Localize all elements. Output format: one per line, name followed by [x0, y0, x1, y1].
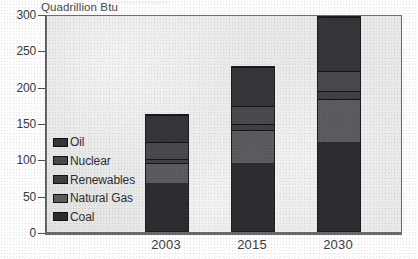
y-axis-tick-label: 0	[2, 226, 36, 240]
bar-segment-natural-gas	[232, 130, 274, 163]
y-axis-tick	[38, 197, 45, 198]
y-axis-tick	[38, 160, 45, 161]
y-axis-tick-label: 150	[2, 117, 36, 131]
y-axis-tick	[38, 124, 45, 125]
y-axis-tick-label: 100	[2, 153, 36, 167]
y-axis-tick-label: 250	[2, 44, 36, 58]
y-axis-tick-labels: 050100150200250300	[0, 0, 36, 259]
legend-label: Natural Gas	[70, 191, 133, 205]
legend-swatch-icon	[53, 194, 68, 203]
legend-label: Renewables	[70, 173, 135, 187]
bar-segment-nuclear	[146, 142, 188, 158]
plot-area: OilNuclearRenewablesNatural GasCoal	[46, 15, 402, 233]
x-axis-tick-label: 2030	[303, 237, 373, 252]
y-axis-unit-label: Quadrillion Btu	[41, 1, 118, 13]
cropped-title-remnant: ........................	[96, 0, 286, 3]
legend-item-coal: Coal	[53, 207, 135, 226]
legend-swatch-icon	[53, 156, 68, 165]
legend-swatch-icon	[53, 175, 68, 184]
bar-segment-oil	[232, 67, 274, 106]
x-axis-line	[45, 233, 402, 235]
y-axis-tick	[38, 88, 45, 89]
y-axis-tick	[38, 51, 45, 52]
y-axis-tick-label: 300	[2, 8, 36, 22]
bar-segment-oil	[318, 17, 360, 71]
legend-item-natural-gas: Natural Gas	[53, 189, 135, 208]
legend-item-oil: Oil	[53, 133, 135, 152]
bar-segment-nuclear	[232, 106, 274, 124]
x-axis-tick-label: 2003	[131, 237, 201, 252]
y-axis-tick-label: 200	[2, 81, 36, 95]
bar-segment-natural-gas	[146, 163, 188, 183]
legend-item-nuclear: Nuclear	[53, 152, 135, 171]
bar-segment-renewables	[318, 91, 360, 99]
stacked-bar	[231, 66, 275, 232]
chart-legend: OilNuclearRenewablesNatural GasCoal	[53, 133, 135, 226]
y-axis-tick-label: 50	[2, 190, 36, 204]
bar-segment-natural-gas	[318, 99, 360, 142]
legend-label: Oil	[70, 135, 84, 149]
y-axis-tick	[38, 233, 45, 234]
legend-label: Nuclear	[70, 154, 111, 168]
chart-figure: ........................ Quadrillion Btu…	[0, 0, 418, 259]
stacked-bar	[317, 16, 361, 232]
x-axis-tick-label: 2015	[217, 237, 287, 252]
legend-swatch-icon	[53, 138, 68, 147]
bar-segment-nuclear	[318, 71, 360, 90]
bar-segment-coal	[232, 163, 274, 231]
legend-swatch-icon	[53, 212, 68, 221]
bar-segment-oil	[146, 115, 188, 143]
bar-segment-coal	[318, 142, 360, 231]
stacked-bar	[145, 114, 189, 232]
legend-label: Coal	[70, 210, 94, 224]
y-axis-tick	[38, 15, 45, 16]
legend-item-renewables: Renewables	[53, 170, 135, 189]
bar-segment-coal	[146, 183, 188, 231]
